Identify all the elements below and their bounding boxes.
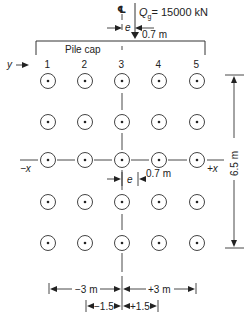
dimension-minus-1-5: −1.5 [94,301,114,312]
minus-x-label: −x [20,163,32,174]
pile-cap-outline [36,41,205,55]
pile-row-1 [41,74,205,89]
dimension-minus-3m: −3 m [75,284,98,295]
pile-row-4 [41,195,205,210]
column-label-3: 3 [119,59,125,70]
y-axis-arrow [22,62,29,68]
column-label-4: 4 [156,59,162,70]
pile-row-5 [41,236,205,251]
centerline-symbol: ℄ [117,4,126,15]
top-eccentricity-symbol: e [125,22,131,33]
dimension-plus-1-5: +1.5 [130,301,150,312]
plus-x-label: +x [207,163,219,174]
pile-grid [41,74,205,251]
column-label-5: 5 [194,59,200,70]
column-label-2: 2 [82,59,88,70]
vertical-dimension-label: 6.5 m [229,151,240,176]
mid-eccentricity-symbol: e [127,174,133,185]
y-axis-label: y [6,59,13,70]
pile-group-diagram: ℄ Qg= 15000 kN e 0.7 m Pile cap y 1 2 3 … [0,0,251,325]
pile-cap-label: Pile cap [65,44,101,55]
dimension-plus-3m: +3 m [148,284,171,295]
load-arrow [131,3,139,39]
column-labels: 1 2 3 4 5 [45,59,200,70]
column-label-1: 1 [45,59,51,70]
load-label: Qg= 15000 kN [139,6,208,21]
bottom-outer-dimension [49,283,196,294]
mid-eccentricity-value: 0.7 m [146,168,171,179]
pile-row-2 [41,115,205,130]
top-eccentricity-value: 0.7 m [142,29,167,40]
